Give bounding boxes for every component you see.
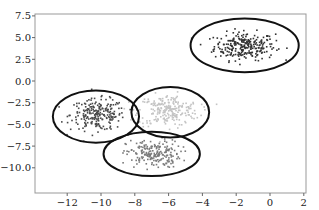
data-point	[256, 51, 258, 53]
data-point	[98, 118, 100, 120]
data-point	[78, 108, 80, 110]
data-point	[200, 44, 202, 46]
data-point	[146, 120, 148, 122]
data-point	[177, 156, 179, 158]
data-point	[179, 124, 181, 126]
data-point	[168, 110, 170, 112]
data-point	[81, 104, 83, 106]
data-point	[114, 116, 116, 118]
data-point	[172, 97, 174, 99]
data-point	[128, 151, 130, 153]
data-point	[261, 58, 263, 60]
data-point	[176, 117, 178, 119]
data-point	[91, 98, 93, 100]
data-point	[147, 146, 149, 148]
data-point	[143, 140, 145, 142]
data-point	[95, 101, 97, 103]
data-point	[243, 41, 245, 43]
data-point	[172, 139, 174, 141]
data-point	[213, 37, 215, 39]
data-point	[238, 55, 240, 57]
data-point	[84, 131, 86, 133]
data-point	[255, 48, 257, 50]
data-point	[194, 113, 196, 115]
data-point	[109, 117, 111, 119]
data-point	[164, 155, 166, 157]
data-point	[275, 33, 277, 35]
data-point	[192, 102, 194, 104]
data-point	[176, 96, 178, 98]
data-point	[141, 142, 143, 144]
data-point	[177, 103, 179, 105]
data-point	[58, 106, 60, 108]
data-point	[238, 31, 240, 33]
data-point	[131, 159, 133, 161]
data-point	[76, 122, 78, 124]
data-point	[160, 116, 162, 118]
data-point	[85, 114, 87, 116]
data-point	[237, 34, 239, 36]
data-point	[142, 101, 144, 103]
data-point	[102, 119, 104, 121]
data-point	[286, 47, 288, 49]
data-point	[229, 40, 231, 42]
data-point	[225, 49, 227, 51]
data-point	[90, 103, 92, 105]
data-point	[185, 112, 187, 114]
data-point	[218, 43, 220, 45]
data-point	[85, 106, 87, 108]
data-point	[122, 152, 124, 154]
data-point	[259, 44, 261, 46]
data-point	[180, 114, 182, 116]
data-point	[168, 102, 170, 104]
data-point	[151, 103, 153, 105]
data-point	[239, 58, 241, 60]
data-point	[83, 113, 85, 115]
data-point	[115, 104, 117, 106]
data-point	[168, 114, 170, 116]
data-point	[128, 101, 130, 103]
x-tick-label: −12	[57, 197, 78, 208]
data-point	[113, 113, 115, 115]
data-point	[226, 30, 228, 32]
data-point	[151, 162, 153, 164]
data-point	[244, 45, 246, 47]
data-point	[172, 144, 174, 146]
data-point	[123, 150, 125, 152]
data-point	[97, 116, 99, 118]
data-point	[110, 126, 112, 128]
data-point	[179, 158, 181, 160]
data-point	[107, 111, 109, 113]
data-point	[139, 159, 141, 161]
data-point	[266, 39, 268, 41]
data-point	[109, 114, 111, 116]
data-point	[151, 164, 153, 166]
data-point	[161, 152, 163, 154]
data-point	[238, 52, 240, 54]
data-point	[75, 116, 77, 118]
data-point	[143, 160, 145, 162]
data-point	[68, 115, 70, 117]
data-point	[91, 106, 93, 108]
data-point	[172, 114, 174, 116]
data-point	[233, 54, 235, 56]
data-point	[159, 143, 161, 145]
data-point	[164, 146, 166, 148]
data-point	[156, 164, 158, 166]
data-point	[87, 122, 89, 124]
data-point	[167, 161, 169, 163]
data-point	[91, 108, 93, 110]
data-point	[266, 35, 268, 37]
data-point	[93, 106, 95, 108]
data-point	[146, 152, 148, 154]
data-point	[234, 28, 236, 30]
data-point	[248, 46, 250, 48]
data-point	[136, 163, 138, 165]
data-point	[85, 110, 87, 112]
y-tick-label: 7.5	[15, 10, 31, 21]
x-tick-label: −4	[195, 197, 210, 208]
data-point	[156, 153, 158, 155]
data-point	[171, 159, 173, 161]
data-point	[168, 117, 170, 119]
data-point	[245, 36, 247, 38]
